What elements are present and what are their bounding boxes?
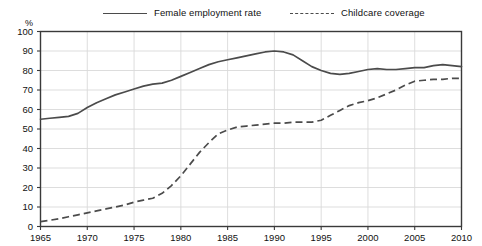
x-axis-tick-label: 1970 [64,233,110,243]
plot-area [0,0,482,246]
y-axis-tick-label: 100 [3,27,33,37]
x-axis-tick-label: 1965 [18,233,64,243]
y-axis-tick-label: 20 [3,183,33,193]
x-axis-tick-label: 1990 [251,233,297,243]
y-axis-tick-label: 70 [3,85,33,95]
y-axis-tick-label: 40 [3,144,33,154]
x-axis-tick-label: 2005 [392,233,438,243]
chart-svg [0,0,482,246]
x-axis-tick-label: 1995 [298,233,344,243]
x-axis-tick-label: 2010 [439,233,482,243]
axis-ticks [37,32,462,231]
x-axis-tick-label: 1985 [205,233,251,243]
gridlines [41,32,462,227]
y-axis-tick-label: 60 [3,105,33,115]
chart-figure: Female employment rate Childcare coverag… [0,0,482,246]
y-axis-tick-label: 10 [3,202,33,212]
y-axis-tick-label: 0 [3,222,33,232]
y-axis-tick-label: 50 [3,124,33,134]
x-axis-tick-label: 1975 [111,233,157,243]
y-axis-tick-label: 30 [3,163,33,173]
x-axis-tick-label: 1980 [158,233,204,243]
y-axis-tick-label: 90 [3,46,33,56]
y-axis-tick-label: 80 [3,66,33,76]
x-axis-tick-label: 2000 [345,233,391,243]
series-line-female-employment-rate [41,51,462,119]
